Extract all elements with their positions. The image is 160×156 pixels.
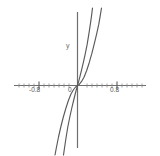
y-axis-label: y [66, 42, 70, 49]
x-tick-label-neg-08: -0.8 [29, 87, 40, 94]
x-tick-label-pos-08: 0.8 [110, 87, 119, 94]
plot-canvas [0, 0, 160, 156]
chart-figure: -0.8 0 0.8 y [0, 0, 160, 156]
x-tick-label-zero: 0 [68, 87, 72, 94]
